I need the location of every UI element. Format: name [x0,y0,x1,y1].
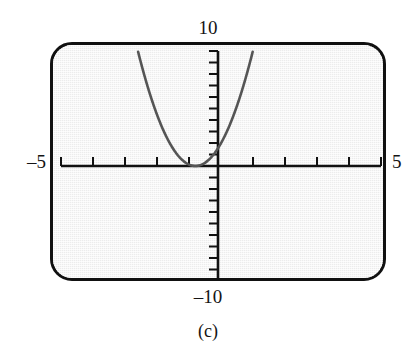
graphing-calculator-screen [50,42,386,281]
y-axis-max-label: 10 [0,18,416,37]
x-axis-max-label: 5 [392,152,416,171]
x-axis-tick-marks [61,157,381,166]
parabola-curve [138,52,253,166]
x-axis-min-label: –5 [12,152,46,171]
figure-container: 10 –5 5 –10 (c) [0,0,416,355]
axes-group [61,51,381,281]
figure-caption: (c) [0,322,416,340]
y-axis-min-label: –10 [0,287,416,306]
plot-area [53,45,386,281]
